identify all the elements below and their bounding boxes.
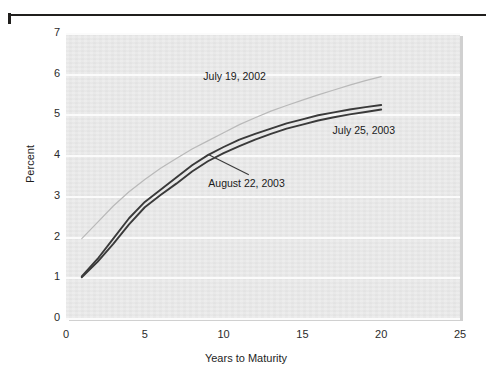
august-leader-line [208, 154, 249, 174]
series-line [82, 77, 381, 239]
y-axis-title: Percent [24, 129, 36, 199]
gridline [66, 318, 460, 320]
x-tick-label: 15 [287, 329, 317, 340]
annotation-july-2003: July 25, 2003 [333, 124, 395, 136]
x-tick-label: 10 [209, 329, 239, 340]
y-tick-label: 5 [38, 108, 60, 119]
annotation-august-2003: August 22, 2003 [208, 177, 284, 189]
annotation-july-2002: July 19, 2002 [203, 70, 265, 82]
y-tick-label: 7 [38, 27, 60, 38]
y-tick-label: 2 [38, 231, 60, 242]
x-tick-label: 25 [445, 329, 475, 340]
chart-page: 01234567 0510152025 Percent Years to Mat… [0, 0, 492, 382]
x-tick-label: 0 [51, 329, 81, 340]
x-tick-label: 20 [366, 329, 396, 340]
y-tick-label: 6 [38, 68, 60, 79]
y-tick-label: 4 [38, 149, 60, 160]
yield-curve-chart: 01234567 0510152025 Percent Years to Mat… [0, 0, 492, 382]
x-tick-label: 5 [130, 329, 160, 340]
y-tick-label: 1 [38, 271, 60, 282]
y-tick-label: 3 [38, 190, 60, 201]
x-axis-title: Years to Maturity [0, 352, 492, 364]
y-tick-label: 0 [38, 312, 60, 323]
